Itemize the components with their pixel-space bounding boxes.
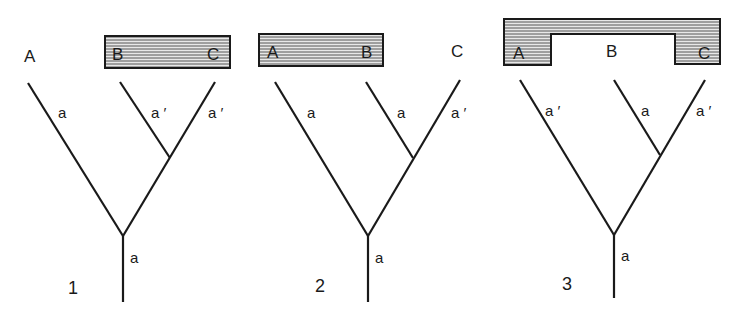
branch-label-b: a [397,104,406,121]
tree-number: 2 [315,276,325,296]
tree-number: 3 [562,274,572,294]
taxon-label-b: B [361,43,372,62]
tree-2: A B C a a a ′ a 2 [259,34,467,302]
taxon-label-b: B [112,45,123,64]
branch-c [123,82,215,236]
cladogram-figure: A B C a a ′ a ′ a 1 A B C a a a ′ a 2 A … [0,0,740,318]
tree-1: A B C a a ′ a ′ a 1 [24,36,230,302]
branch-label-c: a ′ [208,104,224,121]
branch-b [366,82,413,158]
branch-label-a: a [58,104,67,121]
branch-label-c: a ′ [696,102,712,119]
taxon-label-c: C [207,45,219,64]
branch-a [28,83,123,236]
taxon-label-a: A [513,44,525,63]
branch-label-b: a [641,102,650,119]
branch-label-root: a [375,249,384,266]
branch-b [614,80,660,155]
branch-label-a: a [307,104,316,121]
branch-a [520,80,614,235]
taxon-label-b: B [606,42,617,61]
branch-label-root: a [130,249,139,266]
taxon-label-c: C [698,44,710,63]
tree-3: A B C a ′ a a ′ a 3 [504,19,720,298]
taxon-label-a: A [267,43,279,62]
taxon-label-c: C [451,42,463,61]
taxon-label-a: A [24,47,36,66]
branch-label-b: a ′ [151,104,167,121]
branch-a [275,82,368,236]
tree-number: 1 [68,278,78,298]
branch-label-root: a [621,247,630,264]
branch-label-a: a ′ [545,102,561,119]
branch-c [368,80,460,236]
branch-label-c: a ′ [451,104,467,121]
